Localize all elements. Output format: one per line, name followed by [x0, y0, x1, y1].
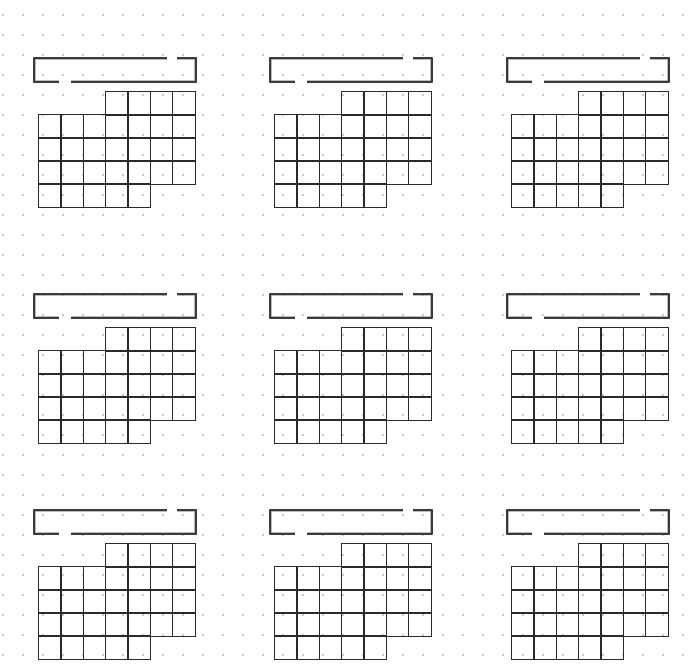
day-cell[interactable] [296, 183, 320, 208]
day-cell[interactable] [105, 543, 129, 568]
day-cell[interactable] [150, 114, 174, 139]
day-cell[interactable] [319, 137, 343, 162]
day-cell[interactable] [150, 543, 174, 568]
day-cell[interactable] [645, 91, 669, 116]
day-cell[interactable] [363, 183, 387, 208]
day-cell[interactable] [363, 635, 387, 660]
day-cell[interactable] [172, 396, 196, 421]
day-cell[interactable] [319, 419, 343, 444]
day-cell[interactable] [105, 419, 129, 444]
day-cell[interactable] [341, 612, 365, 637]
day-cell[interactable] [623, 327, 647, 352]
day-cell[interactable] [556, 350, 580, 375]
day-cell[interactable] [319, 396, 343, 421]
day-cell[interactable] [150, 612, 174, 637]
day-cell[interactable] [60, 419, 84, 444]
day-cell[interactable] [341, 160, 365, 185]
day-cell[interactable] [150, 327, 174, 352]
day-cell[interactable] [386, 543, 410, 568]
day-cell[interactable] [172, 91, 196, 116]
day-cell[interactable] [105, 589, 129, 614]
day-cell[interactable] [60, 373, 84, 398]
day-cell[interactable] [296, 350, 320, 375]
day-cell[interactable] [83, 566, 107, 591]
day-cell[interactable] [83, 612, 107, 637]
day-cell[interactable] [127, 137, 151, 162]
day-cell[interactable] [408, 137, 432, 162]
day-cell[interactable] [600, 635, 624, 660]
day-cell[interactable] [296, 396, 320, 421]
day-cell[interactable] [38, 396, 62, 421]
day-cell[interactable] [274, 589, 298, 614]
day-cell[interactable] [623, 373, 647, 398]
day-cell[interactable] [105, 350, 129, 375]
day-cell[interactable] [38, 114, 62, 139]
day-cell[interactable] [60, 137, 84, 162]
day-cell[interactable] [645, 396, 669, 421]
day-cell[interactable] [38, 566, 62, 591]
day-cell[interactable] [150, 589, 174, 614]
day-cell[interactable] [172, 566, 196, 591]
day-cell[interactable] [511, 373, 535, 398]
day-cell[interactable] [38, 373, 62, 398]
day-cell[interactable] [511, 114, 535, 139]
day-cell[interactable] [386, 589, 410, 614]
day-cell[interactable] [578, 589, 602, 614]
day-cell[interactable] [533, 160, 557, 185]
day-cell[interactable] [600, 543, 624, 568]
day-cell[interactable] [600, 327, 624, 352]
day-cell[interactable] [645, 350, 669, 375]
day-cell[interactable] [600, 612, 624, 637]
day-cell[interactable] [556, 160, 580, 185]
day-cell[interactable] [274, 183, 298, 208]
day-cell[interactable] [578, 566, 602, 591]
day-cell[interactable] [172, 612, 196, 637]
day-cell[interactable] [127, 373, 151, 398]
day-cell[interactable] [511, 612, 535, 637]
day-cell[interactable] [556, 137, 580, 162]
day-cell[interactable] [296, 635, 320, 660]
day-cell[interactable] [127, 114, 151, 139]
month-title-box[interactable] [506, 509, 670, 535]
day-cell[interactable] [60, 589, 84, 614]
day-cell[interactable] [556, 566, 580, 591]
day-cell[interactable] [127, 396, 151, 421]
day-cell[interactable] [533, 114, 557, 139]
day-cell[interactable] [408, 114, 432, 139]
day-cell[interactable] [645, 137, 669, 162]
day-cell[interactable] [533, 589, 557, 614]
day-cell[interactable] [511, 589, 535, 614]
month-title-box[interactable] [33, 509, 197, 535]
day-cell[interactable] [296, 419, 320, 444]
day-cell[interactable] [578, 543, 602, 568]
day-cell[interactable] [556, 114, 580, 139]
day-cell[interactable] [623, 137, 647, 162]
day-cell[interactable] [363, 566, 387, 591]
day-cell[interactable] [60, 183, 84, 208]
day-cell[interactable] [556, 589, 580, 614]
day-cell[interactable] [408, 396, 432, 421]
day-cell[interactable] [60, 396, 84, 421]
day-cell[interactable] [38, 635, 62, 660]
day-cell[interactable] [172, 589, 196, 614]
day-cell[interactable] [578, 327, 602, 352]
day-cell[interactable] [60, 612, 84, 637]
day-cell[interactable] [623, 612, 647, 637]
day-cell[interactable] [83, 137, 107, 162]
day-cell[interactable] [511, 566, 535, 591]
day-cell[interactable] [623, 91, 647, 116]
day-cell[interactable] [408, 91, 432, 116]
day-cell[interactable] [172, 543, 196, 568]
month-title-box[interactable] [33, 293, 197, 319]
day-cell[interactable] [127, 635, 151, 660]
day-cell[interactable] [105, 373, 129, 398]
day-cell[interactable] [274, 635, 298, 660]
day-cell[interactable] [341, 419, 365, 444]
day-cell[interactable] [623, 114, 647, 139]
day-cell[interactable] [408, 589, 432, 614]
day-cell[interactable] [172, 373, 196, 398]
day-cell[interactable] [83, 419, 107, 444]
day-cell[interactable] [127, 91, 151, 116]
day-cell[interactable] [408, 612, 432, 637]
day-cell[interactable] [150, 137, 174, 162]
